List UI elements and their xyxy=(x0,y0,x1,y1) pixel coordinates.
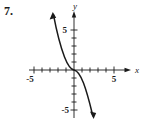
y-axis-label: y xyxy=(72,1,77,11)
curve-start-arrowhead-icon xyxy=(50,12,57,20)
x-axis-label: x xyxy=(134,65,139,75)
y-tick-label-five: 5 xyxy=(63,25,68,35)
x-tick-label-five: 5 xyxy=(112,74,117,84)
y-tick-label-negative-five: -5 xyxy=(62,105,70,115)
coordinate-plane: -5 5 5 -5 x y xyxy=(0,0,152,127)
x-tick-label-negative-five: -5 xyxy=(26,74,34,84)
figure-panel: 7. xyxy=(0,0,152,127)
x-axis-arrowhead-icon xyxy=(125,68,132,72)
y-axis-arrowhead-icon xyxy=(72,11,76,18)
curve-end-arrowhead-icon xyxy=(90,112,96,119)
